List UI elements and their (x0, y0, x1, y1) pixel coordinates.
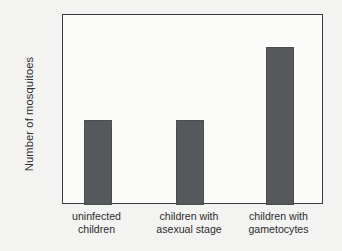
x-axis-category-label: children withgametocytes (224, 210, 334, 237)
category-label-line: gametocytes (224, 223, 334, 236)
bar (176, 120, 204, 206)
category-label-line: children with (224, 210, 334, 223)
bar (266, 47, 294, 205)
plot-area (62, 14, 323, 204)
y-axis-title: Number of mosquitoes (23, 19, 35, 209)
bar-chart-figure: Number of mosquitoes 024681012 uninfecte… (0, 0, 342, 251)
bar (84, 120, 112, 206)
